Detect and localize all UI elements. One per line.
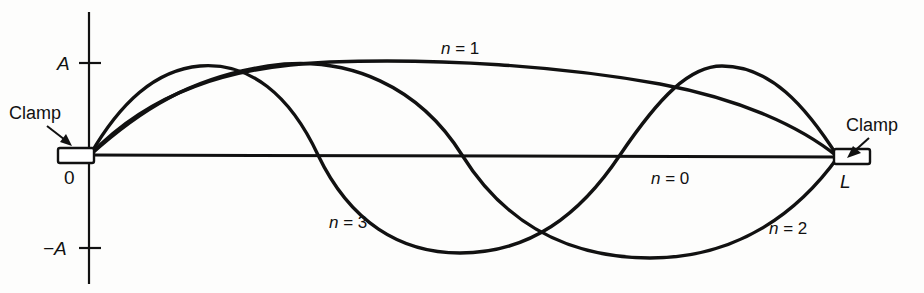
mode-label-n2-eq: = 2 <box>778 219 807 238</box>
axis-label-length: L <box>840 172 851 191</box>
mode-label-n0-eq: = 0 <box>660 169 689 188</box>
mode-label-n0: n = 0 <box>651 170 689 187</box>
mode-curve-n1 <box>90 61 838 157</box>
axis-label-negative-amplitude: −A <box>43 239 67 258</box>
mode-label-n3-eq: = 3 <box>338 213 367 232</box>
clamp-left-block <box>58 148 94 163</box>
clamp-left-arrow-head <box>60 134 72 146</box>
axis-label-origin: 0 <box>64 168 75 187</box>
mode-curve-n2 <box>90 64 838 258</box>
mode-label-n1-eq: = 1 <box>450 39 479 58</box>
axis-label-positive-amplitude: A <box>57 54 70 73</box>
mode-label-n3: n = 3 <box>329 214 367 231</box>
clamp-right-label: Clamp <box>846 116 898 134</box>
mode-label-n2: n = 2 <box>769 220 807 237</box>
clamp-left-label: Clamp <box>9 104 61 122</box>
standing-wave-figure: A −A 0 L Clamp Clamp n = 1 n = 0 n = 3 n… <box>0 0 924 293</box>
mode-label-n1: n = 1 <box>441 40 479 57</box>
